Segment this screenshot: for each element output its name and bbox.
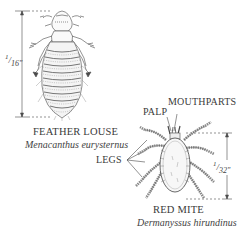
mite-scale-denominator: 32" bbox=[219, 166, 230, 175]
mite-scientific-name: Dermanyssus hirundinus bbox=[137, 217, 237, 228]
palp-callout: PALP bbox=[143, 106, 167, 117]
red-mite-illustration bbox=[0, 0, 246, 233]
legs-callout: LEGS bbox=[96, 154, 122, 165]
mite-common-name: RED MITE bbox=[153, 204, 204, 215]
louse-scale-denominator: 16" bbox=[11, 59, 22, 68]
louse-scientific-name: Menacanthus eurysternus bbox=[25, 139, 128, 150]
mite-scale-label: 1/32" bbox=[213, 160, 230, 175]
louse-scale-label: 1/16" bbox=[5, 53, 22, 68]
mouthparts-callout: MOUTHPARTS bbox=[168, 96, 236, 107]
louse-common-name: FEATHER LOUSE bbox=[33, 126, 118, 137]
